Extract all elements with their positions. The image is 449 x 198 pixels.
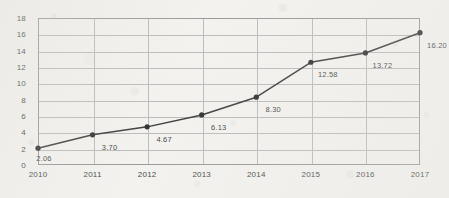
- data-point-marker: [308, 60, 313, 65]
- data-point-marker: [35, 146, 40, 151]
- line-chart: 024681012141618 2.063.704.676.138.3012.5…: [0, 0, 449, 198]
- x-axis-tick-label: 2016: [343, 170, 387, 179]
- data-point-label: 8.30: [266, 105, 281, 114]
- data-point-marker: [199, 112, 204, 117]
- data-point-label: 12.58: [318, 70, 338, 79]
- x-axis-tick-label: 2017: [398, 170, 442, 179]
- data-point-label: 2.06: [36, 154, 51, 163]
- x-axis-tick-label: 2011: [71, 170, 115, 179]
- data-point-label: 13.72: [373, 61, 393, 70]
- x-axis-tick-label: 2013: [180, 170, 224, 179]
- data-point-marker: [363, 50, 368, 55]
- data-point-marker: [417, 30, 422, 35]
- x-axis-tick-label: 2010: [16, 170, 60, 179]
- data-series-svg: [0, 0, 449, 198]
- data-point-label: 4.67: [156, 135, 171, 144]
- series-markers: [35, 30, 422, 151]
- data-point-label: 6.13: [211, 123, 226, 132]
- data-point-marker: [90, 132, 95, 137]
- data-point-marker: [145, 124, 150, 129]
- x-axis-tick-label: 2014: [234, 170, 278, 179]
- x-axis-tick-label: 2012: [125, 170, 169, 179]
- x-axis-tick-label: 2015: [289, 170, 333, 179]
- series-line: [38, 33, 420, 148]
- data-point-label: 16.20: [427, 41, 447, 50]
- chart-page: 024681012141618 2.063.704.676.138.3012.5…: [0, 0, 449, 198]
- data-point-label: 3.70: [102, 143, 117, 152]
- data-point-marker: [254, 95, 259, 100]
